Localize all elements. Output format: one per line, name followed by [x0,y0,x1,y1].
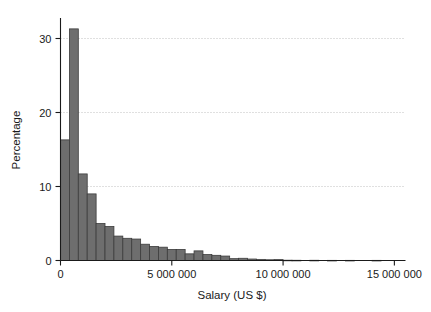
x-tick-label: 10 000 000 [256,268,311,280]
histogram-bar [61,140,70,261]
x-tick-label: 5 000 000 [147,268,196,280]
histogram-bar [185,254,194,261]
histogram-bar [212,255,221,260]
histogram-bar [78,174,87,261]
histogram-bar [176,249,185,260]
histogram-bar [158,247,167,260]
histogram-bar [87,194,96,261]
histogram-bar [114,236,123,260]
chart-canvas: 05 000 00010 000 00015 000 000 0102030 S… [0,0,431,312]
y-axis-title: Percentage [10,111,22,170]
y-tick-label: 30 [39,33,51,45]
histogram-bar [194,251,203,261]
y-tick-label: 0 [45,255,51,267]
histogram-bar [132,239,141,260]
y-axis-tick-labels: 0102030 [39,33,51,267]
gridlines-group [61,39,406,187]
histogram-bar [123,238,132,260]
histogram-bar [221,256,230,260]
x-axis-title: Salary (US $) [197,289,266,301]
y-tick-label: 20 [39,107,51,119]
histogram-bar [167,249,176,260]
histogram-bar [141,244,150,260]
histogram-bar [203,255,212,261]
x-tick-label: 15 000 000 [367,268,422,280]
y-tick-label: 10 [39,181,51,193]
histogram-chart: 05 000 00010 000 00015 000 000 0102030 S… [0,0,431,312]
histogram-bar [96,224,105,261]
x-tick-label: 0 [57,268,63,280]
histogram-bar [105,226,114,260]
histogram-bar [150,246,159,260]
bars-group [61,29,382,261]
x-axis-tick-labels: 05 000 00010 000 00015 000 000 [57,268,421,280]
histogram-bar [69,29,78,261]
